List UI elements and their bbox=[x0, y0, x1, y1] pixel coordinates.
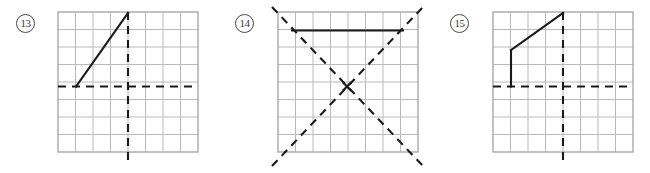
problem-15 bbox=[493, 12, 633, 160]
problem-number-badge-13: 13 bbox=[16, 14, 35, 33]
worksheet-canvas: 131415 bbox=[0, 0, 650, 173]
problem-13 bbox=[58, 12, 198, 160]
problem-number-badge-14: 14 bbox=[235, 14, 254, 33]
diagonal-segment bbox=[511, 13, 563, 50]
problem-14 bbox=[272, 7, 423, 166]
problem-number-badge-15: 15 bbox=[450, 14, 469, 33]
intersection-marker bbox=[343, 82, 351, 90]
worksheet-svg bbox=[0, 0, 650, 173]
diagonal-segment bbox=[76, 13, 128, 87]
